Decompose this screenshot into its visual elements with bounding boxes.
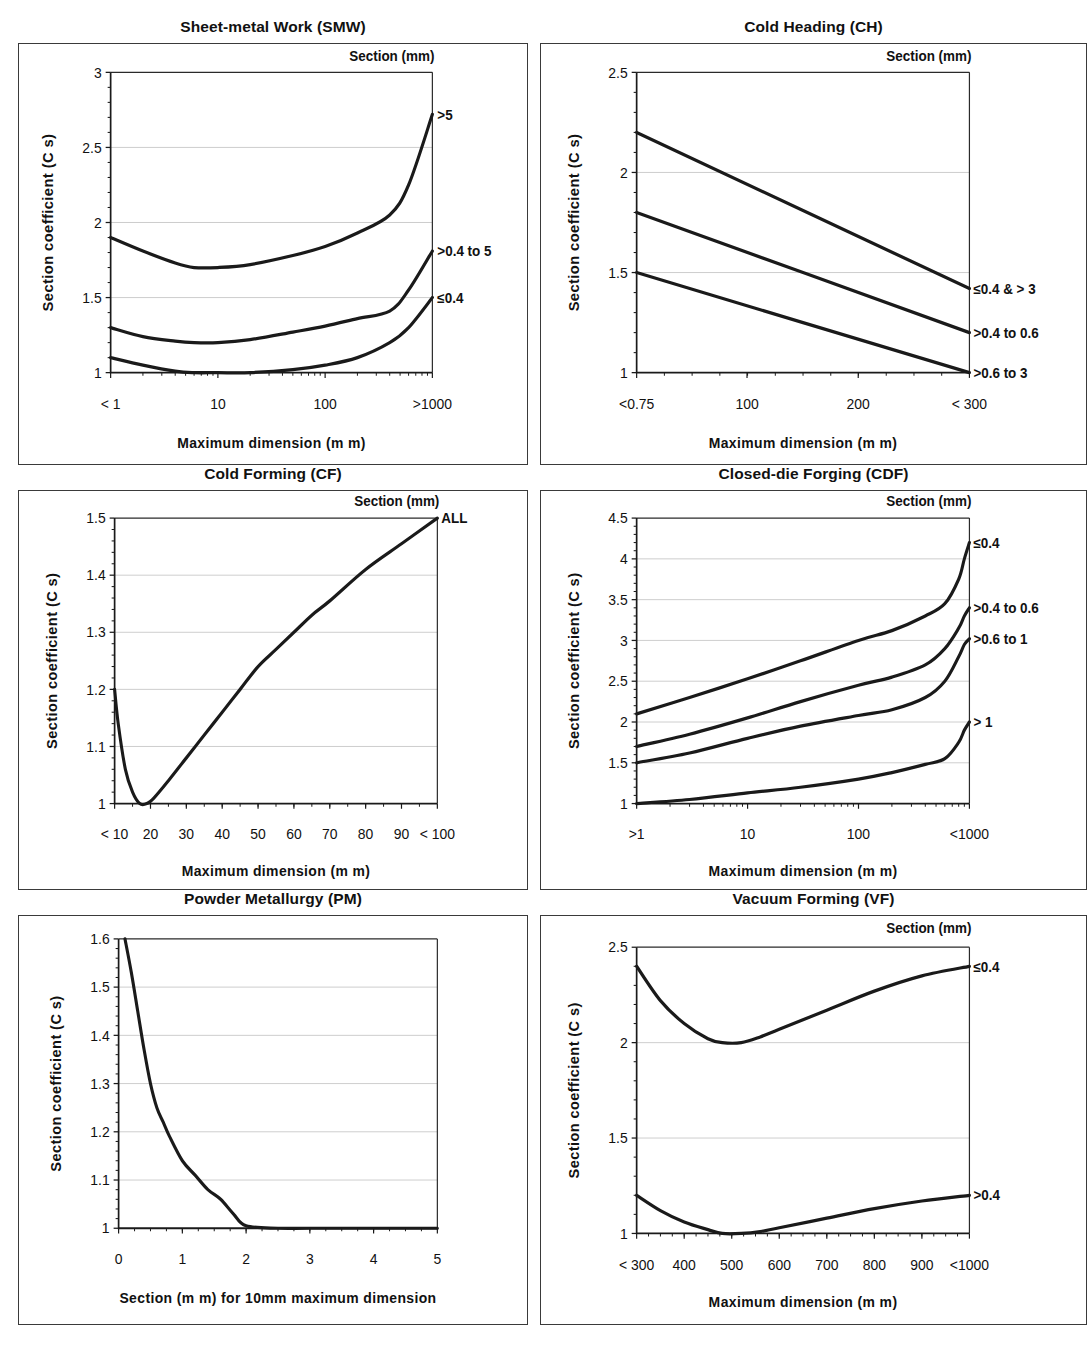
- chart-grid: Sheet-metal Work (SMW) 11.522.53< 110100…: [0, 0, 1087, 1369]
- y-tick-label: 1.1: [86, 738, 105, 754]
- panel-cf: Cold Forming (CF) 11.11.21.31.41.5< 1020…: [18, 465, 528, 890]
- x-tick-label: 40: [214, 826, 230, 842]
- chart-title-vf: Vacuum Forming (VF): [540, 890, 1087, 908]
- legend-title: Section (mm): [354, 493, 439, 508]
- y-tick-label: 1.6: [90, 931, 109, 947]
- y-tick-label: 2: [620, 714, 628, 730]
- panel-pm: Powder Metallurgy (PM) 11.11.21.31.41.51…: [18, 890, 528, 1325]
- series-label: >0.4 to 5: [437, 243, 491, 259]
- x-tick-label: 100: [314, 396, 337, 412]
- series-curve: [637, 543, 970, 714]
- x-tick-label: 20: [143, 826, 159, 842]
- y-tick-label: 2.5: [608, 939, 627, 955]
- x-axis-label: Maximum dimension (m m): [177, 435, 366, 451]
- y-tick-label: 1: [102, 1220, 110, 1236]
- axis-lines: [637, 947, 970, 1233]
- axis-lines: [637, 72, 970, 372]
- chart-frame-ch: 11.522.5<0.75100200< 300≤0.4 & > 3>0.4 t…: [540, 43, 1087, 465]
- x-tick-label: 80: [358, 826, 374, 842]
- x-axis-label: Maximum dimension (m m): [709, 863, 898, 879]
- series-curve: [637, 132, 970, 288]
- x-tick-label: < 300: [952, 396, 987, 412]
- x-tick-label: <1000: [950, 1257, 989, 1273]
- axis-lines: [115, 518, 438, 803]
- x-tick-label: 100: [847, 826, 870, 842]
- x-tick-label: 400: [673, 1257, 696, 1273]
- y-tick-label: 1.3: [86, 624, 105, 640]
- chart-title-pm: Powder Metallurgy (PM): [18, 890, 528, 908]
- x-tick-label: < 100: [420, 826, 455, 842]
- x-tick-label: 70: [322, 826, 338, 842]
- chart-title-cdf: Closed-die Forging (CDF): [540, 465, 1087, 483]
- legend-title: Section (mm): [886, 47, 971, 63]
- x-tick-label: 10: [210, 396, 226, 412]
- chart-title-ch: Cold Heading (CH): [540, 18, 1087, 36]
- x-tick-label: <0.75: [619, 396, 654, 412]
- series-label: >0.6 to 3: [973, 365, 1027, 381]
- y-tick-label: 1.2: [86, 681, 105, 697]
- y-axis-label: Section coefficient (C s): [566, 573, 582, 750]
- y-tick-label: 1.5: [608, 264, 627, 280]
- series-label: ≤0.4: [437, 289, 463, 305]
- panel-smw: Sheet-metal Work (SMW) 11.522.53< 110100…: [18, 18, 528, 465]
- x-tick-label: 200: [847, 396, 870, 412]
- series-label: >0.4 to 0.6: [973, 601, 1039, 616]
- y-tick-label: 4: [620, 551, 628, 567]
- x-tick-label: < 300: [619, 1257, 654, 1273]
- x-axis-label: Section (m m) for 10mm maximum dimension: [119, 1290, 436, 1306]
- y-tick-label: 1.2: [90, 1124, 109, 1140]
- y-tick-label: 2.5: [608, 673, 627, 689]
- series-curve: [637, 1195, 970, 1234]
- y-tick-label: 1.5: [90, 979, 109, 995]
- x-tick-label: 5: [433, 1250, 441, 1266]
- series-curve: [115, 518, 438, 805]
- y-tick-label: 1.4: [86, 567, 105, 583]
- y-tick-label: 1.5: [82, 289, 101, 305]
- series-label: ≤0.4 & > 3: [973, 280, 1036, 296]
- x-tick-label: 50: [250, 826, 266, 842]
- x-tick-label: 0: [115, 1250, 123, 1266]
- y-axis-label: Section coefficient (C s): [40, 134, 56, 312]
- chart-frame-cdf: 11.522.533.544.5>110100<1000≤0.4>0.4 to …: [540, 490, 1087, 890]
- y-axis-label: Section coefficient (C s): [44, 573, 60, 749]
- y-tick-label: 1.3: [90, 1075, 109, 1091]
- series-label: >0.6 to 1: [973, 632, 1028, 647]
- y-tick-label: 3: [620, 632, 628, 648]
- x-tick-label: 800: [863, 1257, 886, 1273]
- y-tick-label: 1.5: [608, 755, 627, 771]
- y-tick-label: 4.5: [608, 510, 627, 526]
- x-axis-label: Maximum dimension (m m): [709, 1294, 898, 1310]
- chart-frame-smw: 11.522.53< 110100>1000>5>0.4 to 5≤0.4Sec…: [18, 43, 528, 465]
- series-label: ≤0.4: [973, 959, 999, 974]
- y-tick-label: 2: [94, 214, 102, 230]
- y-tick-label: 3: [94, 64, 102, 80]
- x-tick-label: 60: [286, 826, 302, 842]
- series-label: >0.4 to 0.6: [973, 325, 1039, 341]
- chart-title-cf: Cold Forming (CF): [18, 465, 528, 483]
- x-tick-label: < 1: [101, 396, 121, 412]
- chart-frame-vf: 11.522.5< 300400500600700800900<1000≤0.4…: [540, 915, 1087, 1325]
- y-tick-label: 1.5: [86, 510, 105, 526]
- y-tick-label: 2: [620, 164, 628, 180]
- legend-title: Section (mm): [349, 47, 434, 63]
- x-tick-label: <1000: [950, 826, 989, 842]
- y-tick-label: 1.4: [90, 1027, 109, 1043]
- chart-title-smw: Sheet-metal Work (SMW): [18, 18, 528, 36]
- x-tick-label: 900: [910, 1257, 933, 1273]
- y-tick-label: 2: [620, 1035, 628, 1051]
- legend-title: Section (mm): [886, 493, 971, 508]
- x-tick-label: 1: [178, 1250, 186, 1266]
- chart-frame-pm: 11.11.21.31.41.51.6012345Section (m m) f…: [18, 915, 528, 1325]
- x-tick-label: 10: [740, 826, 756, 842]
- x-axis-label: Maximum dimension (m m): [182, 863, 371, 879]
- series-label: >0.4: [973, 1188, 1000, 1203]
- x-tick-label: >1000: [413, 396, 452, 412]
- series-label: ≤0.4: [973, 536, 999, 551]
- series-label: ALL: [441, 511, 467, 526]
- legend-title: Section (mm): [886, 920, 971, 935]
- x-tick-label: 700: [815, 1257, 838, 1273]
- y-tick-label: 2.5: [82, 139, 101, 155]
- panel-ch: Cold Heading (CH) 11.522.5<0.75100200< 3…: [540, 18, 1087, 465]
- x-tick-label: 600: [768, 1257, 791, 1273]
- y-axis-label: Section coefficient (C s): [566, 1002, 582, 1178]
